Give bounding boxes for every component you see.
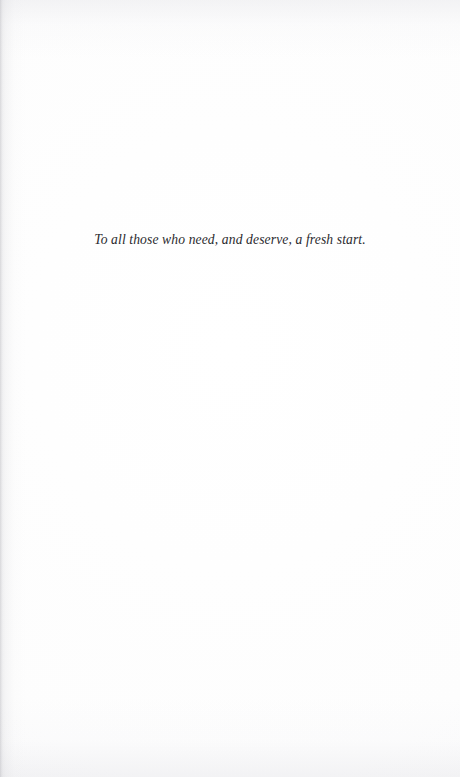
dedication-block: To all those who need, and deserve, a fr… [0,230,460,250]
dedication-text: To all those who need, and deserve, a fr… [94,230,366,250]
paper-texture [0,0,460,777]
dedication-page: To all those who need, and deserve, a fr… [0,0,460,777]
left-edge-line [0,0,3,777]
binding-gutter-shading [0,0,26,777]
top-edge-shading [0,0,460,58]
bottom-edge-shading [0,697,460,777]
